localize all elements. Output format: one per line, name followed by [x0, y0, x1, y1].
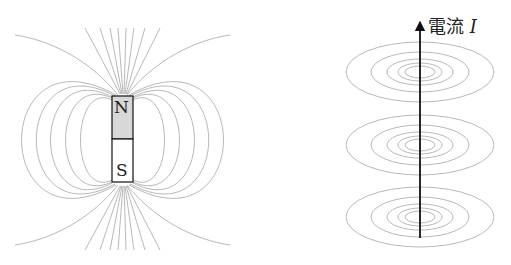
current-symbol: I: [470, 16, 477, 37]
current-text: 電流: [428, 16, 464, 37]
current-label: 電流 I: [428, 12, 477, 38]
field-diagram: [0, 0, 511, 265]
south-label: S: [116, 160, 128, 180]
north-label: N: [114, 97, 129, 117]
